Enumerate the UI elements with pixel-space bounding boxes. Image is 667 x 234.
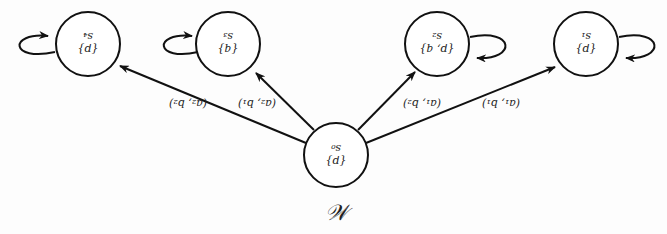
node-s4: {p} s₄ (56, 12, 120, 76)
node-s4-props: {p} (77, 43, 98, 56)
edge-label-s0-s3: (a₂, b₁) (238, 97, 276, 110)
node-s0-name: s₀ (330, 142, 341, 155)
self-loop-s4 (20, 36, 55, 54)
self-loop-s2 (470, 35, 505, 58)
node-s2-props: {p, q} (419, 43, 454, 56)
node-s2-name: s₂ (432, 30, 442, 43)
node-s0-props: {p} (325, 155, 346, 168)
self-loop-s3 (164, 36, 198, 54)
edge-label-s0-s1: (a₁, b₁) (482, 97, 520, 110)
node-s1-name: s₁ (581, 30, 591, 43)
node-s3-props: {q} (217, 43, 238, 56)
node-s0: {p} s₀ (304, 123, 368, 187)
edge-label-s0-s4: (a₂, b₂) (169, 97, 207, 110)
edge-s0-s4 (120, 66, 306, 143)
node-s2: {p, q} s₂ (405, 12, 469, 76)
diagram-canvas: {p} s₄ {q} s₃ {p, q} s₂ {p} s₁ {p} s₀ (a… (0, 0, 667, 234)
self-loop-s1 (619, 35, 654, 58)
node-s3: {q} s₃ (196, 12, 260, 76)
node-s1: {p} s₁ (554, 12, 618, 76)
transition-graph: {p} s₄ {q} s₃ {p, q} s₂ {p} s₁ {p} s₀ (a… (0, 0, 667, 234)
node-s1-props: {p} (575, 43, 596, 56)
node-s4-name: s₄ (83, 30, 93, 43)
world-label: 𝒲 (325, 200, 353, 225)
edge-s0-s1 (366, 67, 555, 143)
node-s3-name: s₃ (223, 30, 233, 43)
edge-label-s0-s2: (a₁, b₂) (403, 97, 441, 110)
